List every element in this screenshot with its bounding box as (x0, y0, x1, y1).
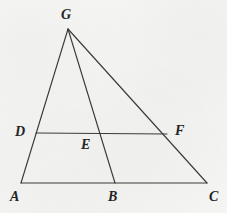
segment-DF (36, 133, 167, 134)
vertex-label-F: F (175, 124, 184, 138)
segment-GC (68, 29, 207, 183)
vertex-label-C: C (209, 190, 218, 204)
geometry-figure: G D E F A B C (0, 0, 227, 213)
vertex-label-B: B (108, 190, 117, 204)
vertex-label-E: E (81, 138, 90, 152)
segment-group (21, 29, 207, 183)
segment-GA (21, 29, 68, 183)
vertex-label-A: A (10, 190, 19, 204)
segment-GB (68, 29, 115, 183)
vertex-label-G: G (61, 8, 71, 22)
vertex-label-D: D (15, 125, 25, 139)
diagram-canvas (0, 0, 227, 213)
